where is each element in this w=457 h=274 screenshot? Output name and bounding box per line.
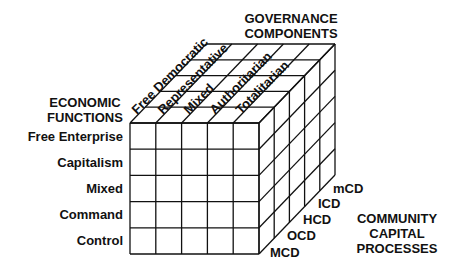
governance-title: GOVERNANCE COMPONENTS xyxy=(236,11,346,41)
economic-title-line2: FUNCTIONS xyxy=(40,110,130,125)
side-face-depth-line xyxy=(259,96,335,175)
community-title-line3: PROCESSES xyxy=(347,241,447,256)
economic-label-free-enterprise: Free Enterprise xyxy=(0,129,123,144)
economic-label-control: Control xyxy=(0,233,123,248)
community-label-ocd: OCD xyxy=(287,228,316,243)
governance-title-line2: COMPONENTS xyxy=(236,26,346,41)
community-title: COMMUNITY CAPITAL PROCESSES xyxy=(347,211,447,256)
economic-label-command: Command xyxy=(0,207,123,222)
community-label-mcd: MCD xyxy=(270,245,300,260)
economic-label-mixed: Mixed xyxy=(0,181,123,196)
governance-title-line1: GOVERNANCE xyxy=(236,11,346,26)
community-label-hcd: HCD xyxy=(303,212,331,227)
community-title-line1: COMMUNITY xyxy=(347,211,447,226)
economic-label-capitalism: Capitalism xyxy=(0,155,123,170)
community-title-line2: CAPITAL xyxy=(347,226,447,241)
economic-title-line1: ECONOMIC xyxy=(40,95,130,110)
economic-title: ECONOMIC FUNCTIONS xyxy=(40,95,130,125)
community-label-icd: ICD xyxy=(318,196,340,211)
community-label-mcd-lower: mCD xyxy=(333,181,363,196)
side-face-depth-line xyxy=(259,123,335,202)
